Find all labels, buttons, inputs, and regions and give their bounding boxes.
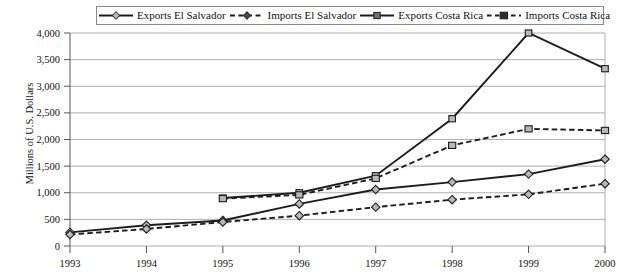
chart-plot-area: 05001,0001,5002,0002,5003,0003,5004,000 … <box>0 0 642 277</box>
series-line-0 <box>70 159 605 232</box>
y-tick-label: 2,000 <box>36 134 60 145</box>
data-point-marker <box>372 175 379 181</box>
x-tick-label: 1998 <box>442 258 463 269</box>
data-series-group <box>66 30 609 239</box>
y-tick-label: 4,000 <box>36 28 60 39</box>
y-tick-label: 1,500 <box>36 161 60 172</box>
data-point-marker <box>524 190 532 198</box>
data-point-marker <box>602 66 609 72</box>
data-point-marker <box>601 179 609 187</box>
data-point-marker <box>524 170 532 178</box>
x-tick-label: 1993 <box>60 258 81 269</box>
series-line-2 <box>223 33 605 198</box>
data-point-marker <box>295 200 303 208</box>
x-tick-label: 1996 <box>289 258 310 269</box>
x-tick-label: 2000 <box>595 258 616 269</box>
series-line-1 <box>70 184 605 235</box>
y-tick-label: 0 <box>55 241 60 252</box>
data-point-marker <box>295 211 303 219</box>
data-point-marker <box>372 203 380 211</box>
data-point-marker <box>601 127 608 133</box>
x-tick-label: 1995 <box>212 258 233 269</box>
data-point-marker <box>525 30 532 36</box>
data-point-marker <box>448 195 456 203</box>
y-tick-label: 500 <box>44 214 60 225</box>
chart-figure: Exports El Salvador Imports El Salvador … <box>0 0 642 277</box>
data-point-marker <box>601 155 609 163</box>
data-point-marker <box>219 196 226 202</box>
y-tick-label: 1,000 <box>36 187 60 198</box>
x-axis-ticks-group: 19931994199519961997199819992000 <box>60 246 616 269</box>
x-tick-label: 1997 <box>365 258 386 269</box>
y-tick-label: 3,500 <box>36 54 60 65</box>
y-tick-label: 2,500 <box>36 107 60 118</box>
gridlines-group <box>70 33 605 246</box>
y-tick-label: 3,000 <box>36 81 60 92</box>
x-tick-label: 1999 <box>518 258 539 269</box>
data-point-marker <box>296 192 303 198</box>
data-point-marker <box>449 116 456 122</box>
data-point-marker <box>448 178 456 186</box>
y-axis-ticks-group: 05001,0001,5002,0002,5003,0003,5004,000 <box>36 28 70 252</box>
x-tick-label: 1994 <box>136 258 158 269</box>
data-point-marker <box>525 126 532 132</box>
data-point-marker <box>449 142 456 148</box>
